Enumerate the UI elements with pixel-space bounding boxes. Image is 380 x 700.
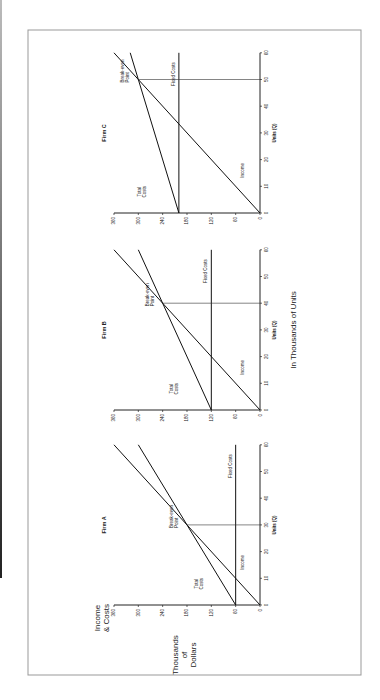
income-label: Income xyxy=(240,359,245,374)
y-units-line1: Thousands xyxy=(171,635,180,675)
x-tick-label: 20 xyxy=(264,354,269,360)
x-tick-label: 50 xyxy=(264,469,269,475)
break-even-label-2: Point xyxy=(125,71,130,82)
y-units-line3: Dollars xyxy=(189,643,198,668)
y-tick-label: 60 xyxy=(233,217,238,223)
y-axis-title-line1: Income xyxy=(93,604,102,631)
x-tick-label: 10 xyxy=(264,575,269,581)
y-tick-label: 180 xyxy=(184,414,189,422)
panel-title: Firm A xyxy=(101,516,107,533)
total-costs-label-2: Costs xyxy=(142,185,147,197)
panel-title: Firm B xyxy=(101,321,107,338)
x-axis-label: Units (Q) xyxy=(272,320,277,339)
break-even-figure: Income & Costs Thousands of Dollars In T… xyxy=(0,0,380,700)
y-tick-label: 180 xyxy=(184,217,189,225)
x-tick-label: 10 xyxy=(264,183,269,189)
x-axis-label: Units (Q) xyxy=(272,123,277,142)
x-tick-label: 20 xyxy=(264,157,269,163)
y-tick-label: 360 xyxy=(111,217,116,225)
fixed-costs-label: Fixed Costs xyxy=(171,62,176,87)
x-tick-label: 40 xyxy=(264,495,269,501)
y-tick-label: 360 xyxy=(111,414,116,422)
rotated-figure: Income & Costs Thousands of Dollars In T… xyxy=(0,0,380,700)
income-label: Income xyxy=(240,554,245,569)
x-tick-label: 60 xyxy=(264,442,269,448)
panel-firm-c: 0102030405060060120180240300360Firm CUni… xyxy=(101,50,277,225)
y-tick-label: 300 xyxy=(136,609,141,617)
panel-title: Firm C xyxy=(101,124,107,141)
series-income xyxy=(114,53,260,213)
x-tick-label: 0 xyxy=(264,408,269,411)
x-tick-label: 40 xyxy=(264,300,269,306)
fixed-costs-label: Fixed Costs xyxy=(228,454,233,479)
y-axis-title-line2: & Costs xyxy=(102,604,111,632)
panel-firm-b: 0102030405060060120180240300360Firm BUni… xyxy=(101,247,277,422)
x-tick-label: 50 xyxy=(264,77,269,83)
x-common-label: In Thousands of Units xyxy=(289,291,298,369)
fixed-costs-label: Fixed Costs xyxy=(203,259,208,284)
y-tick-label: 300 xyxy=(136,217,141,225)
x-tick-label: 10 xyxy=(264,380,269,386)
y-tick-label: 0 xyxy=(258,414,263,417)
x-tick-label: 20 xyxy=(264,549,269,555)
x-tick-label: 0 xyxy=(264,603,269,606)
x-tick-label: 50 xyxy=(264,274,269,280)
x-tick-label: 0 xyxy=(264,211,269,214)
break-even-label-2: Point xyxy=(150,295,155,306)
series-income xyxy=(114,250,260,410)
y-tick-label: 240 xyxy=(160,609,165,617)
x-tick-label: 30 xyxy=(264,327,269,333)
y-tick-label: 120 xyxy=(209,609,214,617)
y-tick-label: 120 xyxy=(209,414,214,422)
panel-firm-a: 0102030405060060120180240300360Firm AUni… xyxy=(101,442,277,617)
y-tick-label: 60 xyxy=(233,609,238,615)
y-tick-label: 300 xyxy=(136,414,141,422)
y-tick-label: 60 xyxy=(233,414,238,420)
y-tick-label: 0 xyxy=(258,609,263,612)
income-label: Income xyxy=(240,162,245,177)
y-tick-label: 120 xyxy=(209,217,214,225)
x-tick-label: 60 xyxy=(264,50,269,56)
total-costs-label-2: Costs xyxy=(174,382,179,394)
y-tick-label: 0 xyxy=(258,217,263,220)
x-tick-label: 40 xyxy=(264,103,269,109)
x-tick-label: 30 xyxy=(264,522,269,528)
y-tick-label: 240 xyxy=(160,414,165,422)
y-units-line2: of xyxy=(180,651,189,658)
y-tick-label: 360 xyxy=(111,609,116,617)
x-axis-label: Units (Q) xyxy=(272,515,277,534)
y-tick-label: 180 xyxy=(184,609,189,617)
x-tick-label: 30 xyxy=(264,130,269,136)
total-costs-label-2: Costs xyxy=(199,577,204,589)
y-tick-label: 240 xyxy=(160,217,165,225)
break-even-label-2: Point xyxy=(174,517,179,528)
x-tick-label: 60 xyxy=(264,247,269,253)
